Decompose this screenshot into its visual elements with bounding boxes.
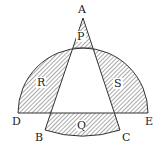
- label-S: S: [114, 77, 122, 90]
- label-Q: Q: [77, 119, 86, 132]
- label-R: R: [37, 76, 46, 89]
- label-C: C: [122, 131, 130, 144]
- label-P: P: [77, 30, 85, 43]
- label-D: D: [12, 115, 21, 128]
- label-B: B: [35, 131, 43, 144]
- label-E: E: [145, 115, 153, 128]
- geometry-figure: A B C D E P R S Q: [0, 0, 163, 150]
- label-A: A: [77, 3, 87, 16]
